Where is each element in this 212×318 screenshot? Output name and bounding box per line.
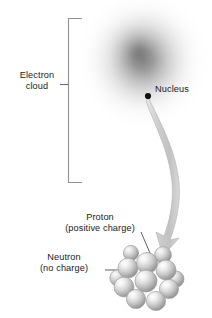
electron-cloud-shape: [73, 0, 212, 134]
proton-label-line2: (positive charge): [46, 223, 154, 234]
neutron-label-line2: (no charge): [22, 263, 106, 274]
proton-label-line1: Proton: [46, 212, 154, 223]
proton-label: Proton (positive charge): [46, 212, 154, 234]
atom-diagram-figure: Electron cloud Nucleus Proton (positive …: [0, 0, 212, 318]
nucleon-sphere: [146, 291, 165, 310]
electron-cloud-label: Electron cloud: [6, 70, 68, 92]
nucleon-sphere-front: [135, 270, 157, 292]
electron-cloud-label-line1: Electron: [6, 70, 68, 81]
nucleon-sphere: [156, 260, 176, 280]
nucleon-sphere: [126, 289, 145, 308]
electron-cloud-label-line2: cloud: [6, 81, 68, 92]
neutron-label-line1: Neutron: [22, 252, 106, 263]
neutron-label: Neutron (no charge): [22, 252, 106, 274]
nucleon-cluster: [110, 245, 184, 310]
nucleus-dot: [145, 93, 151, 99]
nucleon-sphere: [118, 258, 138, 278]
nucleus-label: Nucleus: [155, 84, 189, 95]
nucleus-label-line1: Nucleus: [155, 84, 189, 95]
